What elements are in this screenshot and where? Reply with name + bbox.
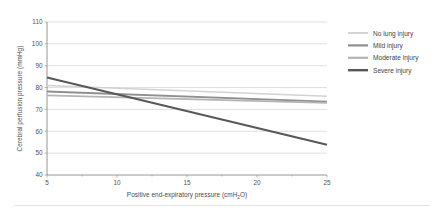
y-tick-label-100: 100: [32, 40, 43, 47]
line-chart-svg: 510152025 405060708090100110 No lung inj…: [0, 0, 442, 215]
y-tick-label-50: 50: [35, 149, 43, 156]
y-axis-title: Cerebral perfusion pressure (mmHg): [16, 46, 24, 152]
x-tick-label-15: 15: [183, 179, 191, 186]
y-tick-label-80: 80: [35, 84, 43, 91]
y-tick-label-group: 405060708090100110: [32, 18, 43, 178]
legend-label-3: Severe injury: [373, 67, 412, 75]
y-tick-label-60: 60: [35, 128, 43, 135]
x-tick-label-25: 25: [323, 179, 331, 186]
x-tick-label-group: 510152025: [45, 179, 331, 186]
x-tick-label-20: 20: [253, 179, 261, 186]
y-tick-label-70: 70: [35, 106, 43, 113]
x-axis-title: Positive end-expiratory pressure (cmH2O): [127, 191, 247, 200]
y-tick-label-40: 40: [35, 171, 43, 178]
x-tick-label-10: 10: [113, 179, 121, 186]
legend-label-0: No lung injury: [373, 30, 414, 38]
legend-label-2: Moderate injury: [373, 54, 419, 62]
legend-label-1: Mild injury: [373, 42, 403, 50]
legend: No lung injuryMild injuryModerate injury…: [348, 30, 419, 75]
y-tick-label-90: 90: [35, 62, 43, 69]
figure-container: 510152025 405060708090100110 No lung inj…: [0, 0, 442, 215]
axis-title-group: Positive end-expiratory pressure (cmH2O)…: [16, 46, 247, 200]
y-tick-label-110: 110: [32, 18, 43, 25]
x-tick-label-5: 5: [45, 179, 49, 186]
chart-plot-area: 510152025 405060708090100110 No lung inj…: [0, 0, 442, 215]
